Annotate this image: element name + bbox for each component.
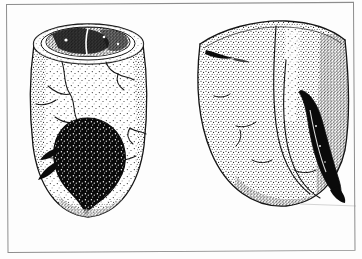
plate-frame-border	[6, 2, 356, 253]
figure-plate	[0, 0, 362, 259]
